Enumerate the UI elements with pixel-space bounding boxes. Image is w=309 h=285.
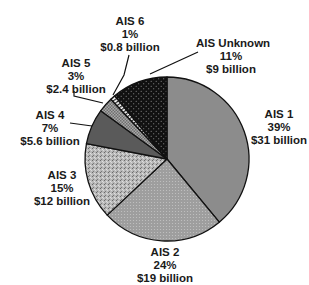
slice-percent: 24% <box>125 259 205 272</box>
slice-value: $0.8 billion <box>97 41 163 54</box>
slice-label-ais-4: AIS 4 7% $5.6 billion <box>14 109 86 148</box>
slice-name: AIS 1 <box>249 108 309 121</box>
slice-value: $5.6 billion <box>14 135 86 148</box>
slice-name: AIS 3 <box>28 169 96 182</box>
slice-name: AIS 2 <box>125 246 205 259</box>
slice-name: AIS 5 <box>45 57 107 70</box>
slice-name: AIS 4 <box>14 109 86 122</box>
slice-label-ais-3: AIS 3 15% $12 billion <box>28 169 96 208</box>
slice-percent: 15% <box>28 182 96 195</box>
slice-percent: 3% <box>45 70 107 83</box>
slice-label-ais-unknown: AIS Unknown 11% $9 billion <box>196 37 266 76</box>
pie-slices <box>85 77 249 241</box>
leader-line-ais-unknown <box>150 52 198 74</box>
slice-value: $19 billion <box>125 272 205 285</box>
slice-label-ais-2: AIS 2 24% $19 billion <box>125 246 205 285</box>
slice-percent: 39% <box>249 121 309 134</box>
slice-value: $12 billion <box>28 195 96 208</box>
slice-label-ais-1: AIS 1 39% $31 billion <box>249 108 309 147</box>
slice-value: $9 billion <box>196 63 266 76</box>
slice-value: $2.4 billion <box>45 83 107 96</box>
slice-percent: 1% <box>97 28 163 41</box>
slice-percent: 7% <box>14 122 86 135</box>
slice-percent: 11% <box>196 50 266 63</box>
slice-name: AIS Unknown <box>196 37 266 50</box>
slice-label-ais-5: AIS 5 3% $2.4 billion <box>45 57 107 96</box>
slice-label-ais-6: AIS 6 1% $0.8 billion <box>97 15 163 54</box>
slice-name: AIS 6 <box>97 15 163 28</box>
slice-value: $31 billion <box>249 134 309 147</box>
